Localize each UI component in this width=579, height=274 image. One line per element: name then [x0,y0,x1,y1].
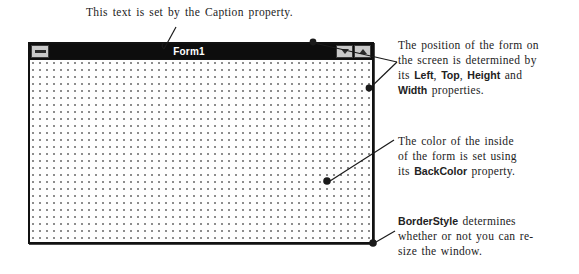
borderstyle-annotation-line-3: size the window. [398,244,579,259]
maximize-button[interactable] [354,45,371,58]
position-annotation-line-1: The position of the form on [398,38,579,53]
borderstyle-annotation-line-1: BorderStyle determines [398,214,579,229]
backcolor-annotation-line-1: The color of the inside [398,134,579,149]
form-properties-figure: This text is set by the Caption property… [0,0,579,274]
position-line4-suffix: properties. [427,84,484,96]
borderstyle-line1-suffix: determines [458,215,516,227]
position-line3-prefix: its [398,69,414,81]
position-annotation-line-4: Width properties. [398,83,579,98]
position-line3-suffix: and [500,69,522,81]
property-name-height: Height [467,69,500,81]
form-client-grid-area[interactable] [30,59,372,242]
form-title-label: Form1 [49,46,335,57]
backcolor-annotation-line-3: its BackColor property. [398,164,579,179]
minimize-triangle-icon [341,49,349,54]
control-menu-bar-glyph [35,50,46,53]
control-menu-box-icon[interactable] [31,45,49,58]
position-separator-1: , [434,69,442,81]
backcolor-annotation: The color of the inside of the form is s… [398,134,579,179]
borderstyle-leader-line [376,231,395,242]
form-window[interactable]: Form1 [28,42,374,244]
maximize-triangle-icon [359,49,367,54]
form-title-bar[interactable]: Form1 [30,44,372,59]
backcolor-line3-prefix: its [398,165,414,177]
property-name-left: Left [414,69,433,81]
property-name-borderstyle: BorderStyle [398,215,458,227]
borderstyle-annotation-line-2: whether or not you can re- [398,229,579,244]
caption-annotation-text: This text is set by the Caption property… [86,6,293,18]
backcolor-annotation-line-2: of the form is set using [398,149,579,164]
position-leader-line-bottom [370,62,397,88]
minimize-button[interactable] [336,45,353,58]
position-annotation: The position of the form on the screen i… [398,38,579,98]
property-name-top: Top [441,69,460,81]
borderstyle-annotation: BorderStyle determines whether or not yo… [398,214,579,259]
property-name-backcolor: BackColor [414,165,467,177]
window-buttons-group [335,45,371,58]
backcolor-line3-suffix: property. [467,165,515,177]
position-annotation-line-3: its Left, Top, Height and [398,68,579,83]
position-annotation-line-2: the screen is determined by [398,53,579,68]
property-name-width: Width [398,84,427,96]
